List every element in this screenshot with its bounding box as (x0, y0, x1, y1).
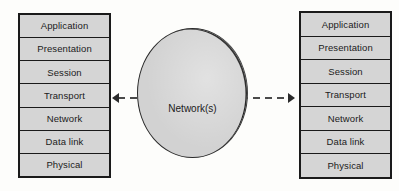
network-cloud-shading (138, 29, 249, 159)
network-cloud-circle (137, 28, 248, 158)
network-cloud-label: Network(s) (137, 103, 248, 114)
layer-transport-left: Transport (20, 84, 109, 107)
layer-session-left: Session (20, 61, 109, 84)
layer-datalink-left: Data link (20, 131, 109, 154)
layer-presentation-left: Presentation (20, 38, 109, 61)
layer-transport-right: Transport (301, 84, 390, 108)
layer-label: Session (328, 67, 363, 77)
layer-label: Application (322, 20, 370, 30)
layer-network-left: Network (20, 108, 109, 131)
layer-label: Application (41, 21, 89, 31)
layer-label: Physical (46, 160, 82, 170)
layer-label: Data link (46, 137, 84, 147)
layer-label: Transport (44, 91, 85, 101)
layer-label: Network (328, 114, 364, 124)
left-protocol-stack: Application Presentation Session Transpo… (18, 13, 111, 178)
layer-label: Data link (327, 137, 365, 147)
osi-network-diagram: Application Presentation Session Transpo… (0, 0, 399, 191)
layer-datalink-right: Data link (301, 131, 390, 155)
layer-label: Physical (327, 161, 363, 171)
arrow-right-icon (288, 93, 295, 103)
arrow-left-icon (112, 93, 119, 103)
layer-application-left: Application (20, 15, 109, 38)
layer-session-right: Session (301, 60, 390, 84)
right-protocol-stack: Application Presentation Session Transpo… (299, 11, 392, 179)
layer-physical-left: Physical (20, 154, 109, 176)
layer-label: Presentation (318, 43, 373, 53)
layer-network-right: Network (301, 107, 390, 131)
layer-label: Session (47, 68, 82, 78)
layer-physical-right: Physical (301, 154, 390, 177)
layer-label: Transport (325, 90, 366, 100)
layer-label: Network (47, 114, 83, 124)
layer-application-right: Application (301, 13, 390, 37)
layer-label: Presentation (37, 44, 92, 54)
layer-presentation-right: Presentation (301, 37, 390, 61)
